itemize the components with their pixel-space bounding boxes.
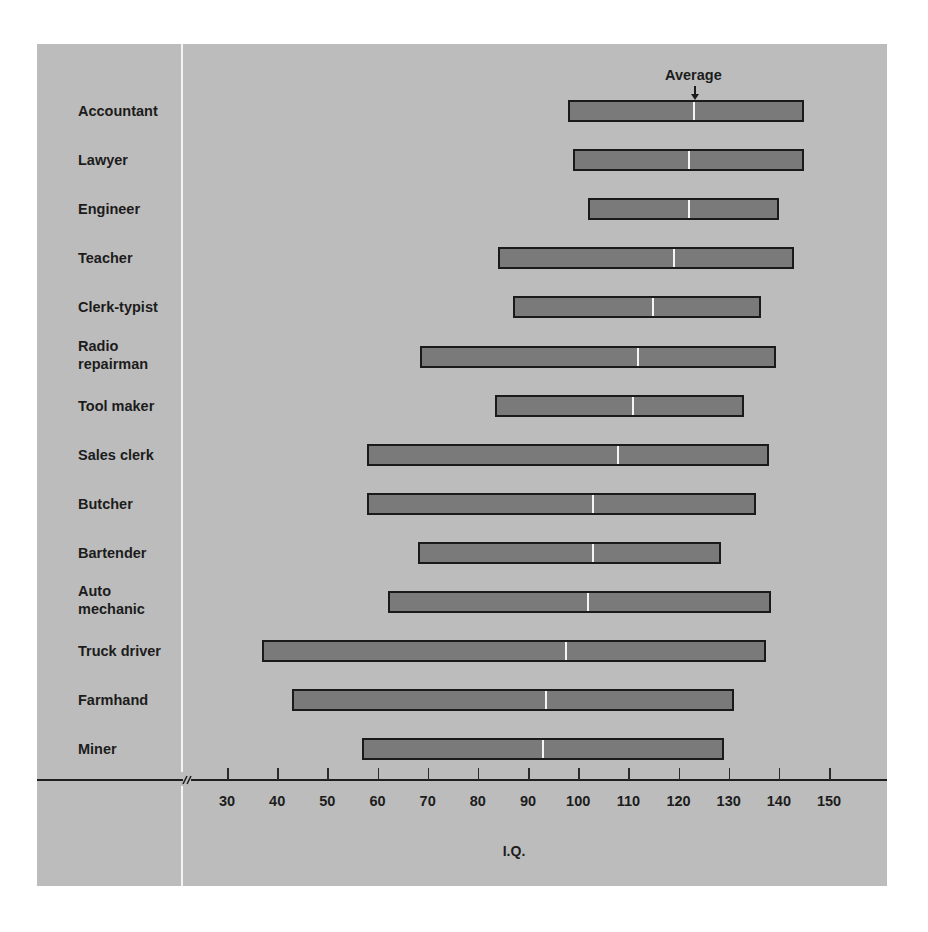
x-tick-label: 80 <box>470 793 486 809</box>
average-marker <box>688 200 690 218</box>
average-marker <box>673 249 675 267</box>
x-tick-label: 110 <box>617 793 640 809</box>
average-annotation: Average <box>665 67 722 83</box>
iq-range-bar <box>367 444 768 466</box>
x-tick-label: 100 <box>566 793 590 809</box>
iq-range-bar <box>513 296 761 318</box>
x-tick <box>829 768 831 780</box>
iq-range-bar <box>498 247 794 269</box>
iq-range-bar <box>367 493 756 515</box>
label-column-divider <box>181 44 183 886</box>
average-marker <box>542 740 544 758</box>
occupation-label: Radiorepairman <box>78 337 148 373</box>
occupation-label: Bartender <box>78 544 147 562</box>
occupation-label: Tool maker <box>78 397 154 415</box>
occupation-label: Lawyer <box>78 151 128 169</box>
occupation-label: Farmhand <box>78 691 148 709</box>
iq-range-bar <box>568 100 804 122</box>
x-tick-label: 70 <box>420 793 436 809</box>
x-tick <box>729 768 731 780</box>
x-tick-label: 90 <box>520 793 536 809</box>
iq-range-bar <box>292 689 733 711</box>
occupation-label: Clerk-typist <box>78 298 158 316</box>
iq-range-bar <box>362 738 723 760</box>
average-marker <box>592 544 594 562</box>
average-marker <box>652 298 654 316</box>
average-marker <box>637 348 639 366</box>
average-marker <box>688 151 690 169</box>
iq-range-bar <box>495 395 743 417</box>
x-tick-label: 130 <box>717 793 741 809</box>
average-marker <box>693 102 695 120</box>
x-tick <box>428 768 430 780</box>
x-tick <box>679 768 681 780</box>
x-tick <box>227 768 229 780</box>
iq-range-bar <box>388 591 772 613</box>
occupation-label: Teacher <box>78 249 133 267</box>
average-marker <box>632 397 634 415</box>
x-tick <box>628 768 630 780</box>
x-tick <box>578 768 580 780</box>
x-tick-label: 140 <box>767 793 791 809</box>
average-marker <box>565 642 567 660</box>
axis-break-icon <box>177 772 201 786</box>
x-tick <box>528 768 530 780</box>
occupation-label: Accountant <box>78 102 158 120</box>
x-tick <box>779 768 781 780</box>
average-marker <box>617 446 619 464</box>
occupation-label: Truck driver <box>78 642 161 660</box>
average-marker <box>592 495 594 513</box>
x-axis-title: I.Q. <box>503 843 526 859</box>
x-tick-label: 40 <box>269 793 285 809</box>
x-tick <box>277 768 279 780</box>
iq-range-bar <box>420 346 776 368</box>
x-tick-label: 150 <box>817 793 841 809</box>
x-axis-line <box>37 779 887 781</box>
average-marker <box>545 691 547 709</box>
iq-range-bar <box>588 198 779 220</box>
occupation-label: Automechanic <box>78 582 145 618</box>
iq-range-bar <box>418 542 722 564</box>
average-marker <box>587 593 589 611</box>
x-tick <box>378 768 380 780</box>
x-tick-label: 30 <box>219 793 235 809</box>
x-tick <box>327 768 329 780</box>
x-tick-label: 120 <box>666 793 690 809</box>
occupation-label: Engineer <box>78 200 140 218</box>
occupation-label: Butcher <box>78 495 133 513</box>
x-tick-label: 50 <box>319 793 335 809</box>
x-tick-label: 60 <box>369 793 385 809</box>
occupation-label: Sales clerk <box>78 446 154 464</box>
iq-range-bar <box>573 149 804 171</box>
occupation-label: Miner <box>78 740 117 758</box>
x-tick <box>478 768 480 780</box>
iq-range-bar <box>262 640 766 662</box>
